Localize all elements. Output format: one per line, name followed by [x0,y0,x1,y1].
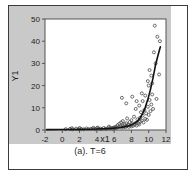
y-tick-label: 0 [36,126,41,135]
figure-caption: (a). T=6 [9,146,171,156]
x-tick-label: 10 [144,135,153,144]
x-tick-label: 2 [77,135,82,144]
y-tick-label: 30 [31,59,40,68]
x-tick-label: -2 [41,135,49,144]
x-tick-label: 6 [112,135,117,144]
scatter-plot: 01020304050 -2024681012 x1 Y1 [9,6,171,144]
y-axis-label: Y1 [10,70,20,81]
x-tick-label: 8 [129,135,134,144]
y-tick-label: 20 [31,82,40,91]
figure-container: 01020304050 -2024681012 x1 Y1 (a). T=6 [0,0,196,176]
y-tick-label: 10 [31,104,40,113]
x-tick-label: 0 [60,135,65,144]
x-axis-label: x1 [100,134,110,144]
y-axis-ticks: 01020304050 [31,15,45,135]
y-tick-label: 40 [31,37,40,46]
x-tick-label: 4 [95,135,100,144]
y-tick-label: 50 [31,15,40,24]
x-tick-label: 12 [162,135,171,144]
